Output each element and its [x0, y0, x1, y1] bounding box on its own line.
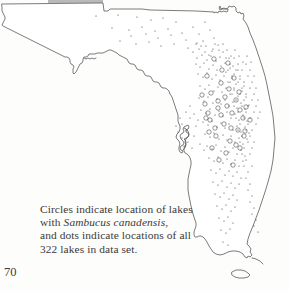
lake-dot — [245, 177, 246, 178]
lake-dot — [150, 19, 151, 20]
apalachicola-bay-detail — [84, 58, 96, 59]
lake-dot — [230, 117, 231, 118]
lake-dot — [204, 133, 205, 134]
page-number: 70 — [4, 265, 17, 279]
lake-dot — [212, 64, 213, 65]
lake-dot — [249, 135, 250, 136]
lake-dot — [239, 78, 240, 79]
lake-dot — [253, 111, 254, 112]
lake-dot — [250, 61, 251, 62]
lake-dot — [202, 40, 203, 41]
lake-dot — [242, 160, 243, 161]
lake-dot — [229, 67, 230, 68]
lake-dot — [187, 47, 188, 48]
lake-dot — [213, 132, 214, 133]
lake-dot — [226, 49, 227, 50]
lake-dot — [236, 199, 237, 200]
lake-dot — [197, 73, 198, 74]
lake-dot — [236, 125, 237, 126]
lake-dot — [214, 114, 215, 115]
lake-dot — [198, 33, 199, 34]
lake-dot — [217, 156, 218, 157]
lake-dot — [210, 55, 211, 56]
lake-dot — [255, 105, 256, 106]
lake-dot — [198, 97, 199, 98]
lake-dot — [215, 172, 216, 173]
lake-dot — [253, 93, 254, 94]
lake-dot — [206, 59, 207, 60]
lake-dot — [224, 99, 225, 100]
lake-dot — [257, 117, 258, 118]
lake-dot — [244, 126, 245, 127]
lake-dot — [128, 29, 129, 30]
lake-dot — [117, 14, 118, 15]
lake-dot — [191, 147, 192, 148]
lake-dot — [181, 123, 182, 124]
lake-dot — [244, 155, 245, 156]
lake-dot — [247, 189, 248, 190]
lake-dot — [95, 15, 96, 16]
lake-dot — [255, 87, 256, 88]
lake-dot — [225, 232, 226, 233]
lake-dot — [209, 108, 210, 109]
lake-dot — [245, 111, 246, 112]
lake-dot — [233, 89, 234, 90]
lake-dot — [239, 75, 240, 76]
lake-dot — [211, 78, 212, 79]
lake-dot — [239, 123, 240, 124]
lake-dot — [223, 75, 224, 76]
lake-dot — [222, 134, 223, 135]
lake-dot — [224, 127, 225, 128]
lake-dot — [240, 131, 241, 132]
lake-dot — [215, 74, 216, 75]
lake-dot — [245, 93, 246, 94]
lake-dot — [224, 62, 225, 63]
lake-dot — [228, 170, 229, 171]
lake-dot — [234, 113, 235, 114]
lake-dot — [217, 44, 218, 45]
lake-dot — [206, 145, 207, 146]
lake-dot — [119, 40, 120, 41]
lake-dot — [240, 102, 241, 103]
caption-line-4: 322 lakes in data set. — [40, 243, 222, 256]
lake-dot — [211, 50, 212, 51]
lake-dot — [148, 41, 149, 42]
lake-dot — [247, 75, 248, 76]
lake-dot — [222, 162, 223, 163]
lake-dot — [251, 81, 252, 82]
lake-dot — [239, 141, 240, 142]
lake-dot — [219, 79, 220, 80]
lake-dot — [213, 90, 214, 91]
lake-dot — [206, 72, 207, 73]
lake-dot — [217, 86, 218, 87]
lake-dot — [223, 220, 224, 221]
lake-dot — [192, 51, 193, 52]
lake-dot — [247, 141, 248, 142]
lake-dot — [238, 137, 239, 138]
lake-dot — [248, 104, 249, 105]
lake-dot — [175, 125, 176, 126]
lake-dot — [231, 93, 232, 94]
lake-dot — [160, 45, 161, 46]
lake-dot — [224, 146, 225, 147]
lake-dot — [210, 169, 211, 170]
lower-keys-outline — [252, 258, 263, 264]
lake-dot — [141, 26, 142, 27]
lake-dot — [234, 187, 235, 188]
caption-line-3: and dots indicate locations of all — [40, 229, 222, 242]
lake-dot — [236, 171, 237, 172]
lake-dot — [242, 114, 243, 115]
lake-dot — [226, 111, 227, 112]
lake-dot — [225, 57, 226, 58]
lake-dot — [243, 117, 244, 118]
lake-dot — [197, 119, 198, 120]
lake-dot — [246, 55, 247, 56]
lake-dot — [219, 56, 220, 57]
lake-dot — [235, 99, 236, 100]
lake-dot — [232, 222, 233, 223]
lake-dot — [218, 110, 219, 111]
lake-dot — [212, 181, 213, 182]
lake-dot — [222, 51, 223, 52]
lake-dot — [235, 83, 236, 84]
lake-dot — [238, 165, 239, 166]
